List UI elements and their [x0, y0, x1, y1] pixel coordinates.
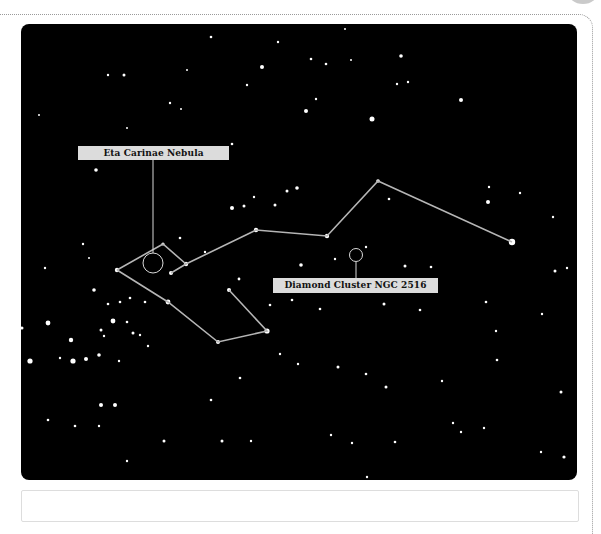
corner-badge — [568, 0, 598, 4]
label-pointers — [143, 160, 363, 278]
constellation-lines — [117, 181, 512, 342]
caption-box — [21, 490, 579, 522]
star-field — [21, 24, 577, 480]
star-chart-image: Eta Carinae Nebula Diamond Cluster NGC 2… — [21, 24, 577, 480]
label-eta-carinae-nebula: Eta Carinae Nebula — [78, 146, 229, 160]
label-diamond-cluster: Diamond Cluster NGC 2516 — [273, 278, 438, 293]
stars — [21, 28, 577, 480]
